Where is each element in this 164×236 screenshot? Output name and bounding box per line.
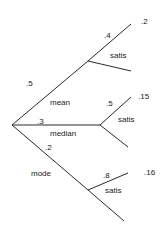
label-mode: mode	[31, 169, 52, 178]
prob-median-satis: .5	[106, 99, 113, 108]
edge-mean-other	[88, 61, 131, 71]
label-median-satis: satis	[118, 115, 134, 124]
joint-mode-satis: .16	[144, 168, 156, 177]
label-mean-satis: satis	[110, 51, 126, 60]
joint-mean-satis: .2	[141, 17, 148, 26]
prob-mode: .2	[45, 143, 52, 152]
edge-mean	[12, 61, 88, 125]
probability-tree-diagram: .5 mean .3 median .2 mode .4 satis .2 .5…	[0, 0, 164, 236]
prob-median: .3	[37, 117, 44, 126]
joint-median-satis: .15	[138, 92, 150, 101]
prob-mean-satis: .4	[104, 31, 111, 40]
label-mode-satis: satis	[105, 186, 121, 195]
prob-mode-satis: .8	[103, 171, 110, 180]
label-mean: mean	[50, 98, 70, 107]
prob-mean: .5	[26, 79, 33, 88]
label-median: median	[50, 129, 76, 138]
edge-median-other	[100, 125, 128, 147]
